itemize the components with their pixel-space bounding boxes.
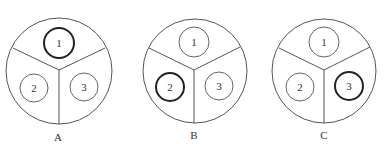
diagram-label: B — [190, 129, 197, 141]
three-sector-diagrams: 1 2 3 A 1 2 3 B — [0, 0, 385, 147]
outer-circle — [143, 19, 247, 123]
sector-2: 2 — [156, 73, 184, 101]
sector-2: 2 — [286, 73, 314, 101]
diagram-label: C — [320, 129, 327, 141]
sector-3: 3 — [205, 72, 233, 100]
inner-label-2: 2 — [31, 82, 37, 94]
sector-2: 2 — [20, 74, 48, 102]
sector-1: 1 — [309, 27, 339, 57]
diagram-c: 1 2 3 C — [272, 19, 376, 141]
sector-3: 3 — [335, 72, 363, 100]
inner-label-3: 3 — [216, 80, 222, 92]
divider-right — [59, 48, 105, 70]
sector-1: 1 — [44, 28, 74, 58]
inner-label-3: 3 — [346, 80, 352, 92]
divider-right — [324, 47, 370, 70]
inner-label-1: 1 — [191, 36, 197, 48]
sector-1: 1 — [179, 27, 209, 57]
inner-label-1: 1 — [321, 36, 327, 48]
diagram-label: A — [54, 131, 62, 143]
diagram-b: 1 2 3 B — [143, 19, 247, 141]
diagram-a: 1 2 3 A — [6, 18, 112, 143]
divider-right — [194, 47, 240, 70]
divider-left — [279, 48, 324, 70]
divider-left — [149, 48, 194, 70]
inner-label-2: 2 — [297, 81, 303, 93]
inner-label-3: 3 — [81, 81, 87, 93]
inner-label-1: 1 — [56, 37, 62, 49]
inner-label-2: 2 — [167, 81, 173, 93]
sector-3: 3 — [70, 73, 98, 101]
divider-left — [13, 48, 59, 70]
